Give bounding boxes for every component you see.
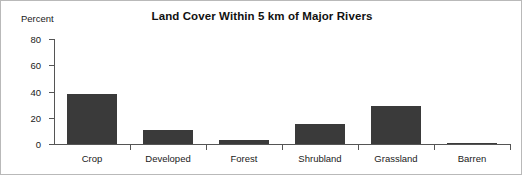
x-axis-tick xyxy=(282,144,283,150)
x-axis-category-label: Developed xyxy=(145,153,190,164)
x-axis-category-label: Shrubland xyxy=(298,153,341,164)
bar xyxy=(371,106,421,144)
x-axis-tick xyxy=(434,144,435,150)
x-axis-category-label: Forest xyxy=(231,153,258,164)
x-axis-tick xyxy=(130,144,131,150)
y-axis-tick: 80 xyxy=(49,39,55,40)
bar xyxy=(447,143,497,145)
y-axis-tick-label: 40 xyxy=(30,86,41,97)
plot-area: 020406080 xyxy=(54,39,510,144)
y-axis-tick: 0 xyxy=(49,144,55,145)
y-axis-tick: 60 xyxy=(49,65,55,66)
bar xyxy=(295,124,345,144)
x-axis-tick xyxy=(206,144,207,150)
chart-title: Land Cover Within 5 km of Major Rivers xyxy=(1,10,522,22)
y-axis-tick: 40 xyxy=(49,92,55,93)
bar xyxy=(219,140,269,144)
x-axis-category-label: Grassland xyxy=(374,153,417,164)
y-axis-tick-label: 0 xyxy=(36,139,41,150)
y-axis-tick: 20 xyxy=(49,118,55,119)
x-axis-end-tick xyxy=(510,144,511,150)
x-axis-category-label: Barren xyxy=(458,153,487,164)
x-axis-tick xyxy=(358,144,359,150)
bar xyxy=(143,130,193,144)
y-axis-tick-label: 20 xyxy=(30,112,41,123)
bar xyxy=(67,94,117,144)
bar-chart-figure: Land Cover Within 5 km of Major Rivers P… xyxy=(0,0,522,175)
x-axis-category-label: Crop xyxy=(82,153,103,164)
y-axis-label: Percent xyxy=(21,13,54,24)
y-axis-tick-label: 60 xyxy=(30,60,41,71)
y-axis-tick-label: 80 xyxy=(30,34,41,45)
